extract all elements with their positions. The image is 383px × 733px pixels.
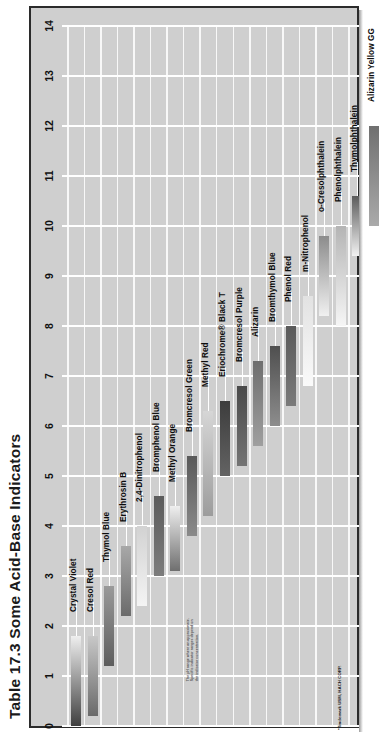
indicator-label: Erythrosin B [117,472,130,522]
gridline-vertical [150,26,152,726]
indicator-label: o-Cresolphthalein [315,141,328,212]
indicator-label: Bromthymol Blue [266,252,279,322]
title-container: Table 17.3 Some Acid-Base Indicators [0,0,30,733]
indicator-bar [253,361,263,446]
chart-plate: 01234567891011121314Crystal VioletCresol… [29,6,359,728]
indicator-label: Thymol Blue [100,512,113,562]
gridline-horizontal [62,25,383,27]
axis-tick-label: 10 [42,213,56,239]
gridline-vertical [249,26,251,726]
gridline-vertical [117,26,119,726]
gridline-horizontal [62,725,383,727]
gridline-vertical [233,26,235,726]
indicator-label: Bromphenol Blue [150,402,163,472]
axis-tick-label: 4 [42,513,56,539]
indicator-label: Alizarin Yellow GG [365,28,378,102]
gridline-horizontal [62,125,383,127]
indicator-label: Bromcresol Purple [233,287,246,362]
indicator-bar [104,586,114,666]
gridline-vertical [133,26,135,726]
gridline-horizontal [62,675,383,677]
axis-tick-label: 13 [42,63,56,89]
indicator-bar [187,456,197,536]
trademark-note: *Trademark USM, HACH CORP. [337,665,343,730]
gridline-vertical [100,26,102,726]
indicator-bar [369,126,379,226]
gridline-vertical [67,26,69,726]
indicator-label: m-Nitrophenol [299,215,312,272]
gridline-vertical [365,26,367,726]
page-edge-shadow [359,10,363,732]
axis-tick-label: 14 [42,13,56,39]
axis-tick-label: 0 [42,713,56,733]
axis-tick-label: 1 [42,663,56,689]
footnote-text: The pH range where an approximate. Speci… [186,617,199,681]
indicator-label: Phenolphthalein [332,137,345,202]
gridline-vertical [315,26,317,726]
indicator-bar [88,636,98,716]
indicator-label: Methyl Red [199,342,212,387]
indicator-bar [336,226,346,326]
chart-grid: 01234567891011121314Crystal VioletCresol… [62,26,383,726]
indicator-bar [137,526,147,606]
indicator-bar [203,411,213,516]
axis-tick-label: 12 [42,113,56,139]
axis-tick-label: 9 [42,263,56,289]
indicator-bar [303,296,313,386]
indicator-label: Phenol Red [282,256,295,302]
axis-tick-label: 6 [42,413,56,439]
indicator-label: 2,4-Dinitrophenol [133,433,146,502]
indicator-bar [121,546,131,616]
axis-tick-label: 7 [42,363,56,389]
indicator-bar [270,346,280,426]
gridline-vertical [381,26,383,726]
indicator-bar [170,506,180,571]
axis-tick-label: 11 [42,163,56,189]
indicator-bar [220,401,230,476]
gridline-vertical [166,26,168,726]
gridline-vertical [84,26,86,726]
indicator-label: Cresol Red [84,568,97,612]
gridline-vertical [332,26,334,726]
indicator-bar [319,236,329,316]
indicator-bar [71,636,81,726]
indicator-label: Alizarin [249,307,262,337]
gridline-vertical [282,26,284,726]
gridline-vertical [299,26,301,726]
axis-tick-label: 3 [42,563,56,589]
gridline-horizontal [62,75,383,77]
indicator-bar [154,496,164,576]
gridline-vertical [266,26,268,726]
axis-tick-label: 8 [42,313,56,339]
axis-tick-label: 2 [42,613,56,639]
indicator-label: Crystal Violet [67,558,80,612]
axis-tick-label: 5 [42,463,56,489]
indicator-label: Eriochrome® Black T [216,292,229,377]
indicator-label: Bromcresol Green [183,359,196,432]
indicator-bar [286,326,296,406]
indicator-bar [237,386,247,466]
page-title: Table 17.3 Some Acid-Base Indicators [1,11,29,721]
indicator-label: Methyl Orange [166,424,179,482]
